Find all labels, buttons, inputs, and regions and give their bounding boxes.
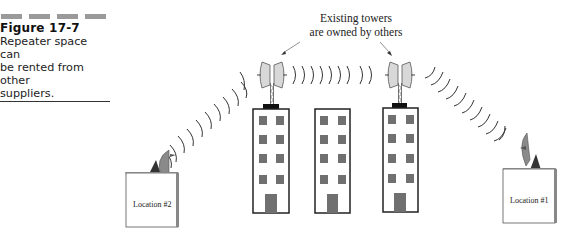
annotation-arrows: [281, 42, 392, 56]
location-1-label: Location #1: [510, 196, 548, 205]
repeater-diagram: [0, 0, 569, 240]
location-2-label: Location #2: [133, 200, 171, 209]
location-1-site: [503, 133, 557, 223]
middle-building: [315, 109, 350, 213]
tower-building-right: [383, 62, 418, 212]
radio-waves-right: [425, 67, 506, 141]
radio-waves-middle: [293, 66, 372, 84]
tower-building-left: [253, 62, 289, 213]
radio-waves-left: [166, 72, 247, 168]
